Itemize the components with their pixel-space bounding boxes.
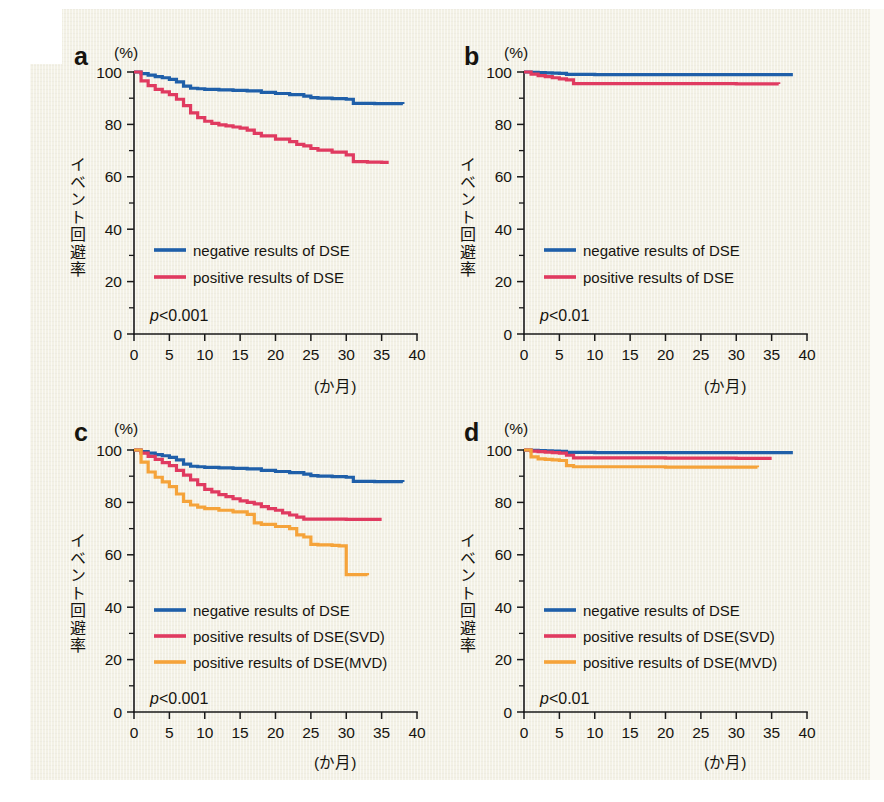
x-tick-label: 40	[798, 346, 816, 363]
legend-label: positive results of DSE	[583, 269, 734, 286]
x-tick-label: 5	[555, 724, 564, 741]
y-tick-label: 20	[495, 651, 513, 668]
x-tick-label: 10	[586, 346, 604, 363]
x-tick-label: 35	[373, 724, 390, 741]
y-tick-label: 0	[503, 704, 512, 721]
x-tick-label: 20	[267, 724, 285, 741]
y-tick-label: 0	[113, 704, 122, 721]
x-tick-label: 40	[408, 346, 426, 363]
y-tick-label: 20	[105, 273, 123, 290]
x-tick-label: 5	[555, 346, 564, 363]
x-tick-label: 10	[586, 724, 604, 741]
x-tick-label: 0	[130, 346, 139, 363]
panel-letter-a: a	[74, 42, 88, 71]
plot-area-c: 0204060801000510152025303540negative res…	[62, 414, 442, 754]
x-axis-unit-d: (か月)	[704, 750, 746, 772]
y-axis-title-a: イベント回避率	[68, 156, 84, 279]
paper-edge-left	[0, 0, 30, 802]
x-tick-label: 40	[408, 724, 426, 741]
x-tick-label: 15	[232, 724, 249, 741]
y-tick-label: 100	[96, 64, 122, 81]
y-tick-label: 60	[495, 168, 513, 185]
y-tick-label: 100	[486, 442, 512, 459]
x-tick-label: 20	[657, 346, 675, 363]
y-tick-label: 60	[105, 168, 123, 185]
x-tick-label: 5	[165, 724, 174, 741]
y-tick-label: 80	[105, 116, 123, 133]
y-axis-unit-c: (%)	[114, 420, 138, 438]
p-value-annotation: p<0.01	[539, 307, 589, 324]
paper-edge-top	[0, 0, 884, 9]
chart-panel-d: d (%) イベント回避率 (か月) 020406080100051015202…	[452, 414, 852, 786]
plot-area-d: 0204060801000510152025303540negative res…	[452, 414, 832, 754]
y-axis-unit-a: (%)	[114, 44, 138, 62]
legend-label: negative results of DSE	[193, 242, 350, 259]
km-curve-positive-results-of-dse	[134, 72, 389, 162]
plot-area-b: 0204060801000510152025303540negative res…	[452, 36, 832, 376]
x-axis-unit-a: (か月)	[314, 374, 356, 396]
x-tick-label: 35	[763, 724, 780, 741]
x-tick-label: 10	[196, 346, 214, 363]
x-axis-unit-c: (か月)	[314, 750, 356, 772]
x-tick-label: 25	[692, 346, 709, 363]
y-tick-label: 40	[105, 599, 123, 616]
x-tick-label: 30	[728, 346, 746, 363]
km-curve-negative-results-of-dse	[524, 72, 793, 75]
y-tick-label: 0	[113, 326, 122, 343]
x-tick-label: 30	[338, 724, 356, 741]
y-tick-label: 20	[105, 651, 123, 668]
x-tick-label: 15	[622, 346, 639, 363]
km-curve-positive-results-of-dse-svd	[134, 450, 382, 519]
legend-label: positive results of DSE(MVD)	[193, 654, 387, 671]
legend-label: negative results of DSE	[583, 602, 740, 619]
y-tick-label: 100	[96, 442, 122, 459]
panel-letter-d: d	[464, 418, 479, 447]
p-value-annotation: p<0.001	[149, 307, 208, 324]
x-axis-unit-b: (か月)	[704, 374, 746, 396]
y-tick-label: 0	[503, 326, 512, 343]
panel-letter-c: c	[74, 418, 88, 447]
y-tick-label: 80	[495, 116, 513, 133]
x-tick-label: 35	[763, 346, 780, 363]
x-tick-label: 10	[196, 724, 214, 741]
x-tick-label: 5	[165, 346, 174, 363]
chart-panel-c: c (%) イベント回避率 (か月) 020406080100051015202…	[62, 414, 442, 786]
y-tick-label: 60	[105, 546, 123, 563]
panel-letter-b: b	[464, 42, 479, 71]
y-tick-label: 100	[486, 64, 512, 81]
paper-edge-corner	[0, 0, 62, 64]
y-axis-title-c: イベント回避率	[68, 532, 84, 655]
x-tick-label: 0	[520, 724, 529, 741]
y-tick-label: 80	[105, 494, 123, 511]
legend-label: negative results of DSE	[583, 242, 740, 259]
x-tick-label: 40	[798, 724, 816, 741]
figure-sheet: a (%) イベント回避率 (か月) 020406080100051015202…	[0, 0, 884, 802]
y-tick-label: 40	[495, 221, 513, 238]
x-tick-label: 30	[338, 346, 356, 363]
legend-label: positive results of DSE(SVD)	[193, 628, 385, 645]
x-tick-label: 30	[728, 724, 746, 741]
x-tick-label: 20	[657, 724, 675, 741]
p-value-annotation: p<0.001	[149, 690, 208, 707]
x-tick-label: 25	[302, 724, 319, 741]
p-value-annotation: p<0.01	[539, 690, 589, 707]
paper-edge-right	[870, 0, 884, 802]
y-tick-label: 40	[105, 221, 123, 238]
plot-area-a: 0204060801000510152025303540negative res…	[62, 36, 442, 376]
x-tick-label: 25	[692, 724, 709, 741]
y-tick-label: 60	[495, 546, 513, 563]
y-axis-title-d: イベント回避率	[458, 532, 474, 655]
x-tick-label: 25	[302, 346, 319, 363]
x-tick-label: 15	[232, 346, 249, 363]
legend-label: negative results of DSE	[193, 602, 350, 619]
chart-panel-a: a (%) イベント回避率 (か月) 020406080100051015202…	[62, 36, 442, 406]
legend-label: positive results of DSE(SVD)	[583, 628, 775, 645]
x-tick-label: 0	[520, 346, 529, 363]
y-tick-label: 40	[495, 599, 513, 616]
x-tick-label: 20	[267, 346, 285, 363]
y-axis-title-b: イベント回避率	[458, 156, 474, 279]
y-tick-label: 80	[495, 494, 513, 511]
x-tick-label: 35	[373, 346, 390, 363]
legend-label: positive results of DSE	[193, 269, 344, 286]
legend-label: positive results of DSE(MVD)	[583, 654, 777, 671]
